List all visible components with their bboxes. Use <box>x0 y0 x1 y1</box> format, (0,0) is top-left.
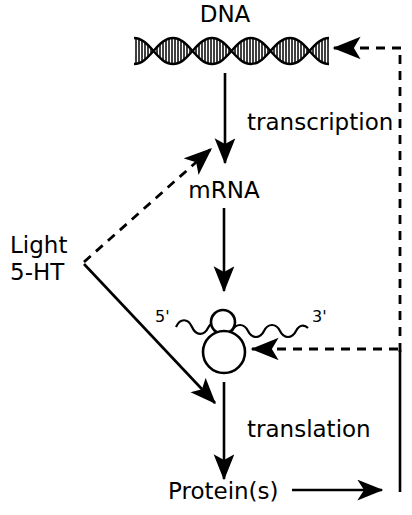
stimulus-to-transcription-arrow <box>84 149 211 262</box>
protein-label: Protein(s) <box>168 478 279 504</box>
stimulus-light-label: Light <box>10 232 67 258</box>
three-prime-label: 3' <box>312 307 327 326</box>
five-prime-label: 5' <box>155 307 170 326</box>
stimulus-to-translation-arrow <box>84 264 215 403</box>
molecular-biology-diagram: DNA transcription mRNA Light 5-HT 5' 3' … <box>0 0 412 515</box>
transcription-label: transcription <box>247 109 393 135</box>
ribosome-large-subunit <box>203 331 245 373</box>
dna-helix-icon <box>134 34 329 68</box>
mrna-label: mRNA <box>188 177 260 203</box>
dna-label: DNA <box>200 1 251 27</box>
translation-label: translation <box>247 416 371 442</box>
diagram-canvas: DNA transcription mRNA Light 5-HT 5' 3' … <box>0 0 412 515</box>
ribosome-assembly <box>176 310 308 373</box>
mrna-strand-right <box>232 325 308 337</box>
stimulus-5ht-label: 5-HT <box>10 259 65 285</box>
